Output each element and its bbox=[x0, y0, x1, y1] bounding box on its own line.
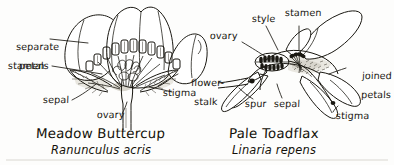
toadflax-stigma-knob bbox=[331, 101, 336, 105]
caption-buttercup-common: Meadow Buttercup bbox=[36, 126, 166, 141]
label-toadflax-style: style bbox=[252, 14, 276, 24]
caption-buttercup-latin: Ranunculus acris bbox=[51, 143, 151, 157]
label-toadflax-stigma: stigma bbox=[336, 111, 370, 121]
label-buttercup-stamen: stamen bbox=[8, 61, 45, 71]
label-buttercup-stigma: stigma bbox=[163, 88, 197, 98]
label-toadflax-ovary: ovary bbox=[210, 31, 238, 41]
caption-toadflax-latin: Linaria repens bbox=[232, 143, 316, 157]
label-separate-petals: separate petals bbox=[2, 32, 54, 81]
label-toadflax-sepal: sepal bbox=[274, 99, 300, 109]
label-buttercup-ovary: ovary bbox=[97, 110, 125, 120]
label-separate-petals-line1: separate bbox=[16, 41, 60, 52]
toadflax-ovary bbox=[255, 53, 289, 71]
label-toadflax-spur: spur bbox=[245, 99, 267, 109]
caption-toadflax-common: Pale Toadflax bbox=[229, 126, 320, 141]
label-flower-stalk-line2: stalk bbox=[194, 96, 218, 107]
label-joined-petals-line2: petals bbox=[361, 89, 391, 100]
label-joined-petals-line1: joined bbox=[362, 70, 392, 81]
toadflax-ovules bbox=[259, 55, 283, 71]
label-buttercup-sepal: sepal bbox=[43, 95, 69, 105]
flower-diagram-figure: separate petals stamen sepal ovary flowe… bbox=[0, 0, 394, 165]
label-joined-petals: joined petals bbox=[348, 61, 392, 110]
label-toadflax-stamen: stamen bbox=[285, 8, 322, 18]
